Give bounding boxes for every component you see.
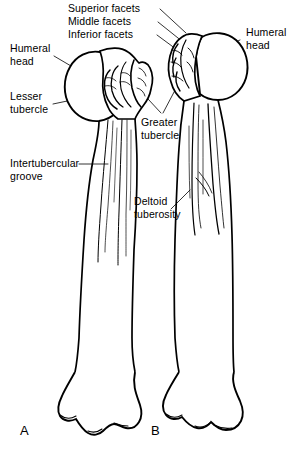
leader-superior-facets (160, 9, 186, 33)
panel-letter-b: B (151, 424, 160, 438)
bone-b-distal-end (163, 372, 243, 430)
humerus-bone-a (58, 48, 152, 435)
label-superior-facets: Superior facets (68, 2, 140, 15)
humerus-illustration (0, 0, 304, 452)
label-lesser-tubercle: Lesser tubercle (10, 90, 48, 115)
bone-b-head-outline (196, 33, 248, 100)
bone-b-shaft-right (218, 100, 234, 372)
label-inferior-facets: Inferior facets (68, 28, 133, 41)
panel-letter-a: A (20, 424, 29, 438)
label-deltoid-tuberosity: Deltoid tuberosity (134, 195, 181, 220)
label-middle-facets: Middle facets (68, 15, 131, 28)
humerus-bone-b (163, 33, 248, 430)
bone-a-distal-end (58, 372, 141, 435)
bone-b-shaft-detail (189, 103, 224, 235)
bone-a-shaft-detail (98, 120, 131, 265)
label-intertubercular-groove: Intertubercular groove (10, 157, 79, 182)
bone-a-proximal-mass (100, 48, 152, 119)
bone-a-shaft-right (132, 119, 137, 372)
label-humeral-head-left: Humeral head (10, 42, 50, 67)
label-humeral-head-right: Humeral head (246, 26, 286, 51)
humerus-figure: Superior facets Middle facets Inferior f… (0, 0, 304, 452)
label-greater-tubercle: Greater tubercle (141, 116, 179, 141)
bone-b-shaft-left (174, 101, 184, 372)
